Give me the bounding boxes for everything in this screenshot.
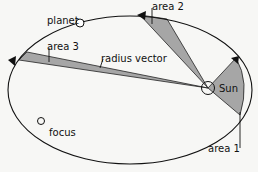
label-radius-vector: radius vector (101, 53, 168, 64)
kepler-orbit-diagram: planet area 2 area 3 radius vector Sun f… (0, 0, 258, 172)
label-planet: planet (47, 15, 79, 26)
label-focus: focus (49, 127, 76, 138)
direction-arrow-icon (137, 11, 146, 20)
label-area-1: area 1 (208, 143, 240, 154)
focus-marker (38, 118, 45, 125)
label-area-3: area 3 (47, 41, 79, 52)
direction-arrow-icon (8, 56, 16, 66)
label-sun: Sun (219, 83, 238, 94)
label-area-2: area 2 (152, 1, 184, 12)
